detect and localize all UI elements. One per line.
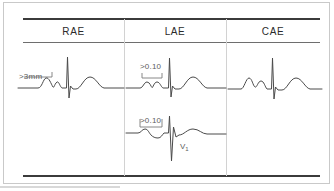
column-divider-lae-cae [226,19,227,176]
annotation-rae-amplitude: >3mm [19,72,42,81]
ecg-trace-lae-top [126,53,226,105]
header-rule-top [23,18,320,20]
image-edge-artifact [0,186,120,188]
column-header-rae: RAE [23,24,124,40]
annotation-lae-duration: >0.10 [140,62,161,71]
annotation-lae-v1-duration: >0.10 [140,116,161,125]
lead-label-v1: V1 [180,142,189,151]
header-rule-bottom [23,42,320,43]
footer-rule [23,175,320,177]
figure-frame: RAE LAE CAE >3mm >0.10 >0.10 V1 [3,2,330,184]
ecg-atrial-enlargement-figure: RAE LAE CAE >3mm >0.10 >0.10 V1 [0,0,334,191]
lead-label-v1-subscript: 1 [185,146,188,152]
column-divider-rae-lae [124,19,125,176]
ecg-trace-cae [228,53,322,105]
column-header-cae: CAE [226,24,320,40]
column-header-lae: LAE [124,24,226,40]
